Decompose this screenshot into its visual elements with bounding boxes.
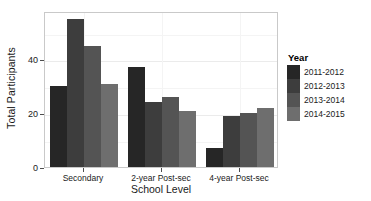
bar [240, 113, 257, 167]
bar [67, 19, 84, 167]
y-tick-label: 0 [33, 163, 38, 173]
bar [50, 86, 67, 167]
legend-swatch [287, 79, 300, 93]
x-tick-mark [161, 168, 162, 172]
y-axis-title: Total Participants [2, 0, 20, 175]
bar [145, 102, 162, 167]
bar-group [128, 13, 195, 167]
legend-swatch [287, 107, 300, 121]
y-axis-ticks: 02040 [20, 12, 44, 168]
legend-item: 2011-2012 [287, 65, 369, 79]
legend-label: 2012-2013 [304, 81, 345, 91]
legend-swatch [287, 65, 300, 79]
x-tick-mark [239, 168, 240, 172]
legend-title: Year [287, 52, 369, 63]
y-tick-label: 20 [28, 109, 38, 119]
bar [128, 67, 145, 167]
bar [206, 148, 223, 167]
legend-label: 2011-2012 [304, 67, 344, 77]
legend-swatch [287, 93, 300, 107]
x-tick-label: 4-year Post-sec [209, 173, 269, 183]
x-axis-title: School Level [44, 183, 278, 195]
legend-item: 2013-2014 [287, 93, 369, 107]
legend-label: 2014-2015 [304, 109, 345, 119]
legend-item: 2012-2013 [287, 79, 369, 93]
y-tick-label: 40 [28, 55, 38, 65]
bar [179, 111, 196, 167]
legend-label: 2013-2014 [304, 95, 345, 105]
bar [101, 84, 118, 167]
x-tick-mark [83, 168, 84, 172]
legend: Year 2011-20122012-20132013-20142014-201… [287, 52, 369, 121]
y-axis-title-text: Total Participants [5, 47, 17, 129]
x-tick-label: Secondary [63, 173, 104, 183]
bar [162, 97, 179, 167]
bar [84, 46, 101, 167]
legend-items: 2011-20122012-20132013-20142014-2015 [287, 65, 369, 121]
y-tick: 40 [28, 55, 44, 65]
legend-item: 2014-2015 [287, 107, 369, 121]
bar-chart-figure: Total Participants 02040 Secondary2-year… [0, 0, 371, 201]
bar [223, 116, 240, 167]
plot-panel [44, 12, 278, 168]
x-tick-label: 2-year Post-sec [131, 173, 191, 183]
bar [257, 108, 274, 167]
y-tick: 0 [33, 163, 44, 173]
y-tick: 20 [28, 109, 44, 119]
bar-group [50, 13, 117, 167]
bar-group [206, 13, 273, 167]
